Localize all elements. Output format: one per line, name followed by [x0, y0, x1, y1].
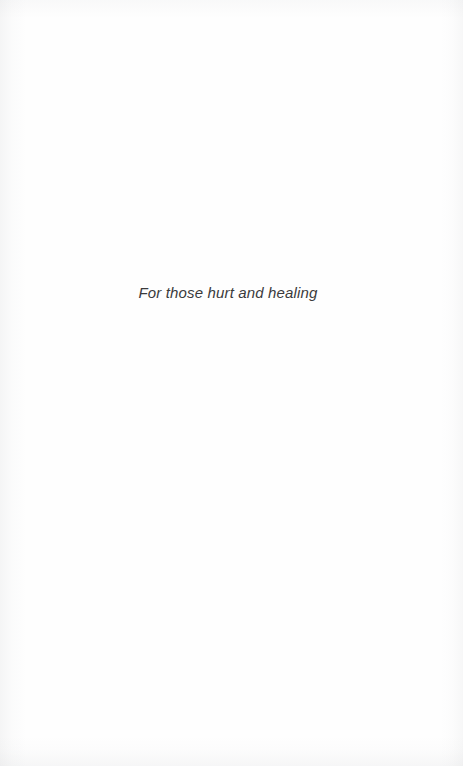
scanned-page: For those hurt and healing: [0, 0, 463, 766]
page-edge-shading-right: [441, 0, 463, 766]
dedication-block: For those hurt and healing: [0, 283, 463, 302]
page-edge-shading-bottom: [0, 736, 463, 766]
page-edge-shading-top: [0, 0, 463, 18]
dedication-text: For those hurt and healing: [138, 283, 317, 302]
page-edge-shading-left: [0, 0, 26, 766]
